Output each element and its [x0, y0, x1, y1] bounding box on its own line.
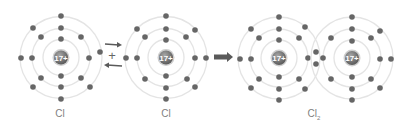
reaction-arrow-icon [214, 52, 233, 62]
electron-dot [296, 76, 302, 82]
electron-dot [29, 55, 35, 61]
electron-dot [368, 35, 374, 41]
cl-atom-2: 17+ [123, 13, 209, 102]
electron-dot [248, 26, 254, 32]
electron-dot [78, 34, 84, 40]
nucleus: 17+ [53, 49, 70, 66]
electron-dot [320, 55, 326, 61]
electron-dot [58, 84, 64, 90]
electron-dot [142, 34, 148, 40]
electron-dot [305, 55, 311, 61]
electron-dot [192, 55, 198, 61]
electron-dot [328, 35, 334, 41]
electron-dot [142, 76, 148, 82]
electron-dot [163, 13, 169, 19]
nucleus-charge: 17+ [272, 54, 286, 63]
electron-dot [97, 49, 103, 55]
electron-dot [349, 97, 355, 103]
electron-dot [30, 84, 36, 90]
atoms-layer: 17+17+17+17+ [18, 13, 394, 103]
electron-dot [18, 55, 24, 61]
electron-dot [377, 85, 383, 91]
electron-dot [276, 26, 282, 32]
electron-dot [58, 36, 64, 42]
electron-dot [276, 86, 282, 92]
electron-dot [163, 26, 169, 32]
electron-dot [38, 34, 44, 40]
electron-dot [276, 14, 282, 20]
electron-dot [134, 55, 140, 61]
electron-dot [276, 97, 282, 103]
electron-dot [86, 55, 92, 61]
electron-dot [349, 26, 355, 32]
electron-dot [58, 13, 64, 19]
electron-dot [313, 49, 319, 55]
electron-dot [248, 56, 254, 62]
atom-label-1: Cl [55, 108, 64, 119]
electron-dot [203, 55, 209, 61]
electron-dot [256, 76, 262, 82]
nucleus: 17+ [271, 50, 288, 67]
electron-dot [313, 61, 319, 67]
electron-dot [377, 56, 383, 62]
electron-dot [123, 55, 129, 61]
electron-dot [256, 35, 262, 41]
electron-dot [183, 34, 189, 40]
electron-dot [349, 74, 355, 80]
electron-dot [248, 85, 254, 91]
electron-dot [388, 56, 394, 62]
nucleus: 17+ [158, 49, 175, 66]
electron-dot [78, 75, 84, 81]
electron-dot [296, 35, 302, 41]
atom-label-2: Cl [161, 108, 170, 119]
nucleus-charge: 17+ [159, 54, 173, 63]
electron-dot [276, 74, 282, 80]
electron-dot [237, 56, 243, 62]
electron-dot [163, 37, 169, 43]
cl-atom-1: 17+ [18, 13, 103, 102]
electron-dot [302, 86, 308, 92]
electron-dot [184, 76, 190, 82]
nucleus: 17+ [344, 50, 361, 67]
atom-label-3: Cl2 [308, 108, 321, 121]
electron-dot [163, 96, 169, 102]
electron-dot [163, 73, 169, 79]
nucleus-charge: 17+ [345, 54, 359, 63]
electron-dot [58, 25, 64, 31]
electron-dot [276, 37, 282, 43]
electron-dot [87, 84, 93, 90]
electron-dot [134, 26, 140, 32]
plus-sign: + [108, 48, 116, 63]
electron-dot [30, 25, 36, 31]
electron-dot [58, 73, 64, 79]
electron-dot [377, 28, 383, 34]
electron-dot [349, 14, 355, 20]
electron-dot [302, 24, 308, 30]
electron-dot [192, 27, 198, 33]
electron-dot [328, 76, 334, 82]
electron-dot [58, 96, 64, 102]
electron-dot [163, 85, 169, 91]
electron-dot [349, 38, 355, 44]
cl2-atom-right: 17+ [311, 14, 394, 103]
electron-dot [349, 86, 355, 92]
electron-dot [192, 84, 198, 90]
cl2-atom-left: 17+ [237, 14, 320, 103]
electron-dot [38, 75, 44, 81]
nucleus-charge: 17+ [54, 54, 68, 63]
electron-dot [368, 76, 374, 82]
